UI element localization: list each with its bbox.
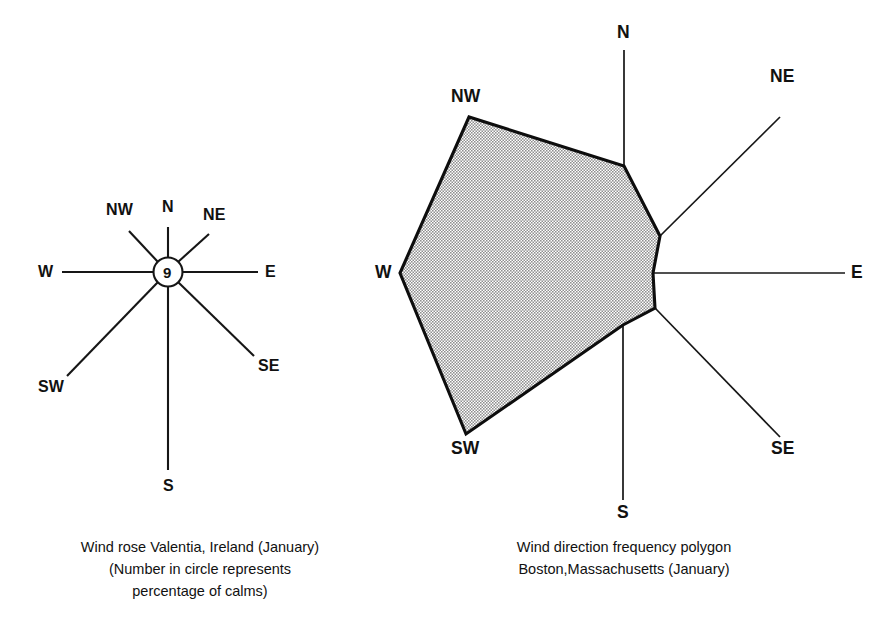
- polygon-ray-se: [655, 308, 780, 437]
- polygon-label-n: N: [617, 24, 630, 42]
- caption-frequency-polygon-line1: Wind direction frequency polygon: [444, 536, 804, 558]
- rose-ray-sw: [67, 282, 158, 376]
- rose-label-sw: SW: [38, 379, 64, 395]
- caption-wind-rose-line3: percentage of calms): [20, 580, 380, 602]
- wind-rose-figure: N NE E SE S SW W NW 9 N NE E SE S SW W N…: [0, 0, 894, 633]
- polygon-label-ne: NE: [770, 68, 795, 86]
- rose-ray-ne: [178, 234, 209, 262]
- calm-percentage-value: 9: [163, 265, 171, 280]
- frequency-polygon-shape: [400, 117, 660, 434]
- rose-label-nw: NW: [106, 202, 133, 218]
- rose-label-e: E: [265, 264, 276, 280]
- caption-wind-rose-line1: Wind rose Valentia, Ireland (January): [20, 536, 380, 558]
- rose-label-n: N: [162, 199, 174, 215]
- caption-wind-rose-line2: (Number in circle represents: [20, 558, 380, 580]
- polygon-label-se: SE: [771, 440, 795, 458]
- polygon-label-e: E: [851, 264, 863, 282]
- caption-frequency-polygon: Wind direction frequency polygon Boston,…: [444, 536, 804, 580]
- rose-ray-se: [178, 282, 254, 356]
- caption-frequency-polygon-line2: Boston,Massachusetts (January): [444, 558, 804, 580]
- polygon-label-nw: NW: [451, 88, 481, 106]
- rose-label-ne: NE: [203, 207, 226, 223]
- rose-label-s: S: [163, 478, 174, 494]
- rose-label-se: SE: [258, 358, 280, 374]
- caption-wind-rose: Wind rose Valentia, Ireland (January) (N…: [20, 536, 380, 602]
- polygon-ray-ne: [660, 117, 780, 236]
- polygon-label-s: S: [617, 504, 629, 522]
- rose-ray-nw: [129, 231, 158, 262]
- polygon-label-sw: SW: [451, 440, 480, 458]
- polygon-label-w: W: [375, 264, 392, 282]
- rose-label-w: W: [38, 264, 53, 280]
